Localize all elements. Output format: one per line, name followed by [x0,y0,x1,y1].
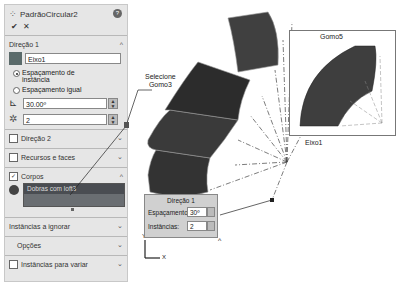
popup-spacing-field[interactable]: 30º [187,207,207,217]
select-callout: Selecione Gomo3 [145,73,176,89]
popup-instances-field[interactable]: 2 [187,221,207,231]
popup-title: Direção 1 [145,197,217,204]
elbow-preview [290,31,395,135]
direction-popup: Direção 1 Espaçamento: 30º Instâncias: 2 [144,194,218,238]
handle-point [124,122,129,128]
elbow-part [148,12,279,196]
popup-instances-spinner[interactable] [207,221,215,231]
handle-point [270,198,274,202]
popup-collapse-icon[interactable]: ^ [218,237,221,244]
popup-spacing-spinner[interactable] [207,207,215,217]
inset-label: Gomo5 [320,33,343,40]
axis-label[interactable]: Eixo1 [305,139,323,146]
result-preview-inset: Gomo5 [289,30,396,136]
triad-x-label: X [162,254,166,260]
triad-icon [145,240,160,258]
